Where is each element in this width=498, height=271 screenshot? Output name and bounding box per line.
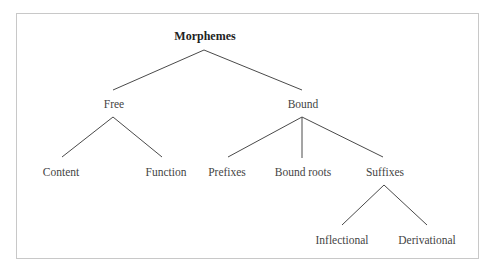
node-inflectional: Inflectional xyxy=(315,233,368,247)
node-bound: Bound xyxy=(288,97,319,111)
edge-morphemes-bound xyxy=(204,50,302,90)
node-prefixes: Prefixes xyxy=(208,165,246,179)
edge-bound-suffixes xyxy=(302,117,383,157)
node-bound-roots: Bound roots xyxy=(275,165,332,179)
tree-edges xyxy=(0,0,498,271)
node-content: Content xyxy=(43,165,79,179)
edge-suffixes-derivational xyxy=(384,185,427,225)
edge-bound-prefixes xyxy=(228,117,302,157)
edge-morphemes-free xyxy=(113,50,204,90)
node-suffixes: Suffixes xyxy=(366,165,404,179)
node-morphemes: Morphemes xyxy=(174,29,235,43)
edge-free-content xyxy=(62,117,113,157)
edge-free-function xyxy=(113,117,162,157)
node-function: Function xyxy=(146,165,187,179)
node-free: Free xyxy=(104,97,124,111)
node-derivational: Derivational xyxy=(398,233,455,247)
edge-suffixes-inflectional xyxy=(342,185,384,225)
